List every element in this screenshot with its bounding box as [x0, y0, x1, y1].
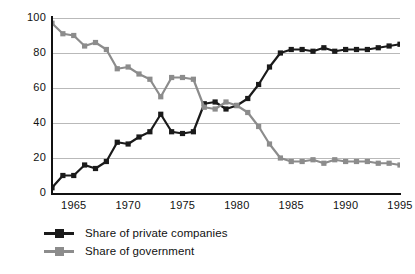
data-point-marker — [71, 33, 76, 38]
data-point-marker — [93, 166, 98, 171]
data-point-marker — [234, 103, 239, 108]
chart-legend: Share of private companies Share of gove… — [44, 224, 344, 260]
data-point-marker — [256, 124, 261, 129]
data-point-marker — [82, 162, 87, 167]
data-point-marker — [332, 49, 337, 54]
data-point-marker — [169, 75, 174, 80]
x-tick-label: 1985 — [279, 199, 304, 211]
data-point-marker — [321, 161, 326, 166]
data-point-marker — [397, 42, 400, 47]
line-chart-figure: 020406080100 196519701975198019851990199… — [0, 0, 415, 274]
plot-area — [52, 18, 400, 193]
data-point-marker — [104, 47, 109, 52]
data-point-marker — [387, 161, 392, 166]
data-point-marker — [82, 43, 87, 48]
data-point-marker — [202, 105, 207, 110]
data-point-marker — [126, 64, 131, 69]
data-point-marker — [332, 157, 337, 162]
series-line — [52, 44, 400, 188]
legend-label-government: Share of government — [85, 245, 194, 258]
legend-item-private: Share of private companies — [44, 224, 344, 242]
legend-swatch-government — [44, 245, 74, 257]
data-point-marker — [191, 129, 196, 134]
data-point-marker — [169, 129, 174, 134]
data-point-marker — [256, 82, 261, 87]
data-point-marker — [115, 66, 120, 71]
data-point-marker — [223, 99, 228, 104]
legend-swatch-private — [44, 227, 74, 239]
data-point-marker — [300, 47, 305, 52]
data-point-marker — [147, 129, 152, 134]
data-point-marker — [213, 106, 218, 111]
y-tick-label: 80 — [2, 47, 46, 58]
data-point-marker — [343, 159, 348, 164]
x-tick-label: 1970 — [115, 199, 140, 211]
data-point-marker — [387, 43, 392, 48]
y-axis-line — [51, 16, 53, 195]
x-axis-tick-labels: 1965197019751980198519901995 — [0, 199, 415, 215]
data-point-marker — [300, 159, 305, 164]
legend-marker-private — [55, 229, 64, 238]
legend-label-private: Share of private companies — [85, 227, 228, 240]
data-point-marker — [245, 96, 250, 101]
data-point-marker — [191, 77, 196, 82]
x-tick-label: 1995 — [387, 199, 412, 211]
y-axis-tick-labels: 020406080100 — [0, 0, 46, 274]
y-tick-label: 0 — [2, 187, 46, 198]
data-point-marker — [278, 50, 283, 55]
data-point-marker — [354, 159, 359, 164]
data-point-marker — [158, 112, 163, 117]
data-point-marker — [213, 99, 218, 104]
data-point-marker — [343, 47, 348, 52]
data-point-marker — [267, 64, 272, 69]
legend-item-government: Share of government — [44, 242, 344, 260]
data-point-marker — [158, 94, 163, 99]
data-point-marker — [180, 131, 185, 136]
data-point-marker — [267, 141, 272, 146]
data-point-marker — [354, 47, 359, 52]
data-point-marker — [289, 159, 294, 164]
data-point-marker — [104, 159, 109, 164]
data-point-marker — [115, 140, 120, 145]
y-tick-label: 40 — [2, 117, 46, 128]
data-point-marker — [180, 75, 185, 80]
x-tick-label: 1975 — [170, 199, 195, 211]
data-point-marker — [71, 173, 76, 178]
series-share-of-private-companies — [52, 42, 400, 191]
series-layer — [52, 18, 400, 193]
x-tick-label: 1980 — [224, 199, 249, 211]
data-point-marker — [376, 161, 381, 166]
data-point-marker — [289, 47, 294, 52]
data-point-marker — [223, 106, 228, 111]
data-point-marker — [365, 159, 370, 164]
x-tick-label: 1990 — [333, 199, 358, 211]
data-point-marker — [60, 173, 65, 178]
data-point-marker — [376, 45, 381, 50]
y-tick-label: 20 — [2, 152, 46, 163]
y-tick-label: 60 — [2, 82, 46, 93]
data-point-marker — [147, 77, 152, 82]
data-point-marker — [310, 49, 315, 54]
data-point-marker — [278, 155, 283, 160]
series-line — [52, 23, 400, 165]
data-point-marker — [126, 141, 131, 146]
x-tick-label: 1965 — [61, 199, 86, 211]
data-point-marker — [136, 134, 141, 139]
y-tick-label: 100 — [2, 12, 46, 23]
data-point-marker — [365, 47, 370, 52]
data-point-marker — [397, 162, 400, 167]
data-point-marker — [136, 71, 141, 76]
x-axis-line — [51, 193, 401, 195]
legend-marker-government — [55, 247, 64, 256]
data-point-marker — [310, 157, 315, 162]
data-point-marker — [321, 45, 326, 50]
data-point-marker — [60, 31, 65, 36]
series-share-of-government — [52, 21, 400, 168]
data-point-marker — [245, 110, 250, 115]
data-point-marker — [93, 40, 98, 45]
